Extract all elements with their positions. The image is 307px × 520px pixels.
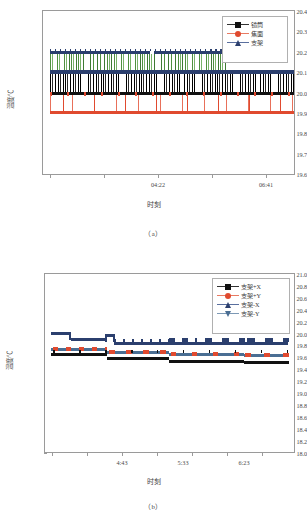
series-zhijia-negx-seg5 <box>202 342 242 345</box>
series-zhijia-posx-seg1 <box>51 353 107 356</box>
legend-label: 支架-X <box>239 300 260 309</box>
legend-label: 支架-Y <box>239 309 260 318</box>
legend-item-jingtong[interactable]: 镜筒 <box>227 20 283 29</box>
x-tick-label: 04:22 <box>151 181 165 188</box>
series-zhijia-posx-seg3 <box>169 360 244 363</box>
legend-item-zhijia-posy[interactable]: 支架+Y <box>217 291 285 300</box>
series-jingtong-transitions <box>50 74 294 92</box>
legend-marker-triangle-up-icon <box>217 300 239 309</box>
series-zhijia-posx-seg4 <box>244 361 289 364</box>
x-tick-mark <box>227 453 228 456</box>
series-zhijia-posx-teeth <box>53 350 289 353</box>
figure-caption-b: （b） <box>0 501 307 511</box>
x-tick-mark <box>157 453 158 456</box>
x-tick-mark <box>158 175 159 178</box>
x-tick-mark <box>50 175 51 178</box>
figure-caption-a: （a） <box>0 228 307 238</box>
x-tick-mark <box>262 453 263 456</box>
series-zhijia-negx-teeth4 <box>247 338 289 342</box>
legend-label: 焦面 <box>249 29 263 38</box>
x-tick-label: 4:43 <box>116 459 127 466</box>
legend-label: 支架+Y <box>239 291 261 300</box>
series-jiaomian-band-199 <box>50 111 294 114</box>
y-axis-title-b: 温度/℃ <box>5 333 14 389</box>
series-zhijia-negx-teeth2 <box>169 338 197 342</box>
x-tick-mark <box>87 453 88 456</box>
x-axis-title-a: 时刻 <box>0 199 307 209</box>
x-tick-mark <box>266 175 267 178</box>
series-zhijia-negx-teeth3 <box>205 338 245 342</box>
series-zhijia-negx-seg3 <box>114 342 169 345</box>
legend-item-zhijia-negy[interactable]: 支架-Y <box>217 309 285 318</box>
legend-marker-triangle-down-icon <box>217 309 239 318</box>
series-zhijia-negx-riser2 <box>105 334 107 342</box>
legend-marker-circle <box>227 29 249 38</box>
legend-label: 支架+X <box>239 282 261 291</box>
x-axis-title-b: 时刻 <box>0 476 307 486</box>
x-tick-mark <box>52 453 53 456</box>
y-axis-title-a: 温度/℃ <box>6 72 15 128</box>
x-tick-label: 06:41 <box>259 181 273 188</box>
x-tick-mark <box>192 453 193 456</box>
series-zhijia-negx-seg1 <box>51 332 71 335</box>
series-green-transitions <box>50 54 231 71</box>
legend-marker-circle <box>217 291 239 300</box>
plot-area-a: 温度/℃ 20.4 20.3 20.2 20.1 20.0 19.9 19.8 … <box>0 0 307 258</box>
x-tick-mark <box>212 175 213 178</box>
legend-label: 支架 <box>249 38 263 47</box>
legend-item-zhijia-posx[interactable]: 支架+X <box>217 282 285 291</box>
series-zhijia-teeth <box>50 49 232 51</box>
x-tick-label: 5:33 <box>177 459 188 466</box>
figure-a: 温度/℃ 20.4 20.3 20.2 20.1 20.0 19.9 19.8 … <box>0 0 307 258</box>
series-zhijia-negx-seg2 <box>71 338 107 341</box>
series-zhijia-negx-seg4 <box>169 342 202 345</box>
series-zhijia-posy-points4 <box>245 353 289 357</box>
legend-marker-square <box>227 20 249 29</box>
series-zhijia-negx-seg6 <box>242 342 288 345</box>
legend-item-zhijia[interactable]: 支架 <box>227 38 283 47</box>
series-zhijia-negx-teeth1 <box>114 339 169 342</box>
legend-marker-triangle-up-icon <box>227 38 249 47</box>
legend-a[interactable]: 镜筒 焦面 支架 <box>222 16 288 63</box>
series-zhijia-posx-seg2 <box>107 357 169 360</box>
series-jiaomian-transitions-2 <box>50 95 294 112</box>
legend-label: 镜筒 <box>249 20 263 29</box>
legend-marker-square <box>217 282 239 291</box>
plot-area-b: 温度/℃ 21.0 20.8 20.6 20.4 20.2 20.0 19.8 … <box>0 258 307 520</box>
legend-item-jiaomian[interactable]: 焦面 <box>227 29 283 38</box>
x-tick-mark <box>104 175 105 178</box>
x-tick-label: 6:23 <box>238 459 249 466</box>
legend-item-zhijia-negx[interactable]: 支架-X <box>217 300 285 309</box>
x-tick-mark <box>122 453 123 456</box>
legend-b[interactable]: 支架+X 支架+Y 支架-X <box>212 278 290 334</box>
figure-b: 温度/℃ 21.0 20.8 20.6 20.4 20.2 20.0 19.8 … <box>0 258 307 520</box>
